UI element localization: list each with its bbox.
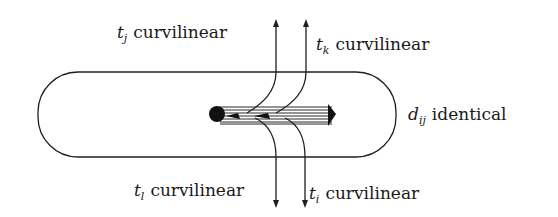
label-dij-symbol: d: [408, 104, 419, 124]
label-dij-text: identical: [432, 104, 507, 124]
diagram-canvas: tjcurvilinear tkcurvilinear dijidentical…: [0, 0, 558, 217]
label-tl-text: curvilinear: [150, 180, 245, 200]
path-1-upper: [247, 23, 276, 113]
label-tl-subscript: l: [141, 190, 145, 203]
path-2-upper: [276, 23, 306, 113]
hatched-bar: [220, 104, 336, 126]
label-dij: dijidentical: [408, 104, 507, 127]
label-ti-text: curvilinear: [325, 183, 420, 203]
path-1-lower: [255, 118, 276, 204]
label-ti-subscript: i: [316, 193, 320, 206]
label-tj-text: curvilinear: [133, 22, 228, 42]
label-dij-subscript: ij: [419, 114, 427, 127]
label-tk-subscript: k: [323, 44, 330, 57]
label-tl: tlcurvilinear: [134, 180, 245, 203]
start-node: [209, 106, 225, 122]
path-2-lower: [285, 118, 305, 204]
label-tk: tkcurvilinear: [316, 34, 430, 57]
label-tk-text: curvilinear: [336, 34, 431, 54]
crossing-marker-1: [226, 113, 240, 119]
label-ti: ticurvilinear: [309, 183, 420, 206]
label-tj: tjcurvilinear: [117, 22, 228, 45]
